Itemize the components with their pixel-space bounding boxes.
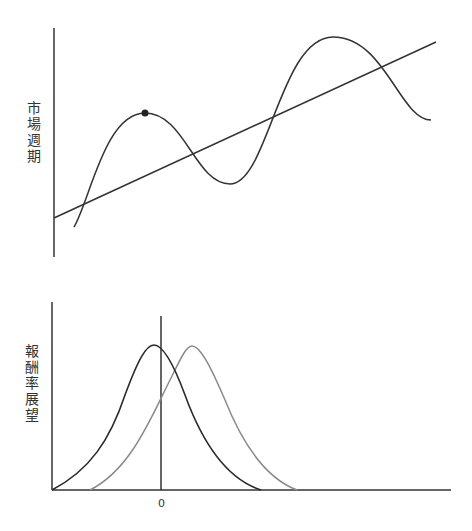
peak-marker (142, 110, 149, 117)
distribution-dark (52, 345, 261, 490)
x-tick-zero: 0 (158, 497, 165, 510)
trend-line (54, 42, 436, 218)
bottom-y-axis-label: 報酬率展望 (24, 343, 40, 423)
market-cycle-curve (74, 37, 431, 227)
diagram-canvas (0, 0, 472, 531)
top-y-axis-label: 市場週期 (26, 100, 42, 164)
